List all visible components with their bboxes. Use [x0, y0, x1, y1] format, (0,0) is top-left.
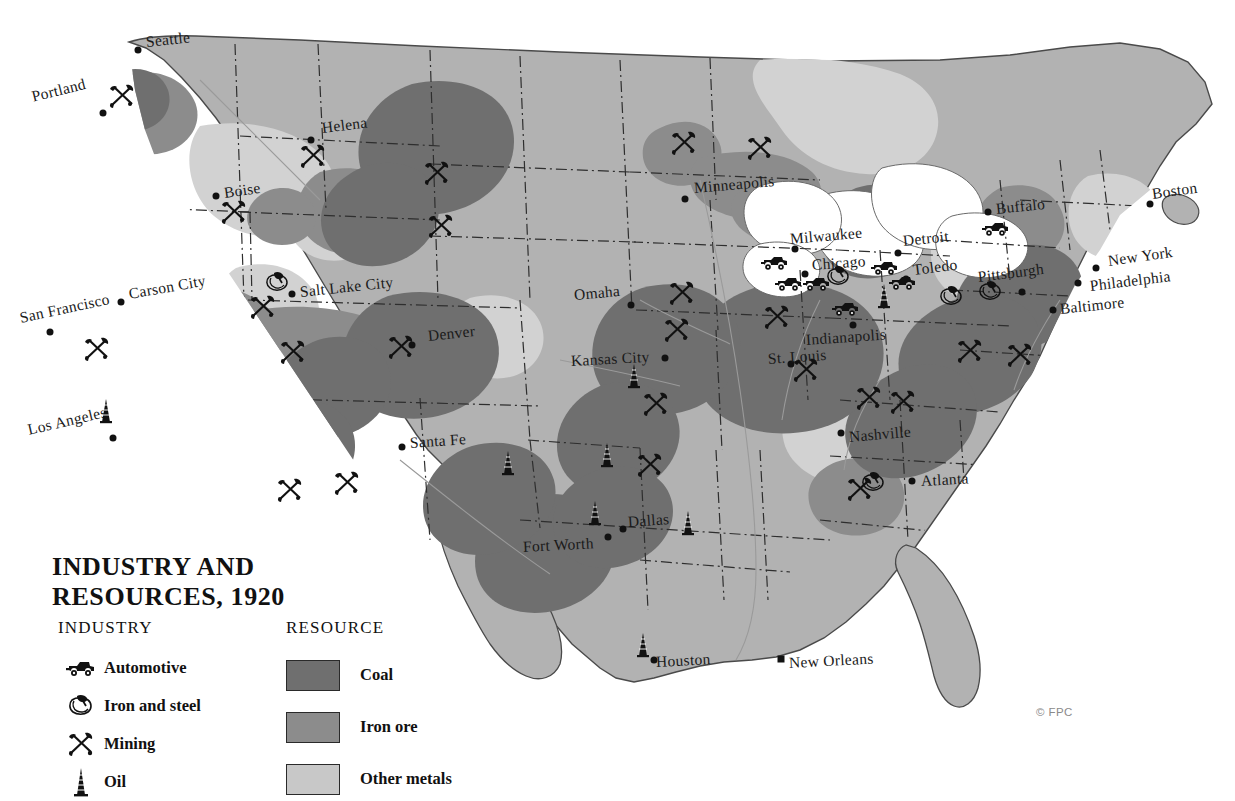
automotive-icon [888, 274, 918, 295]
city-marker [100, 110, 107, 117]
mining-icon [664, 318, 690, 346]
mining-icon [280, 340, 306, 368]
mining-icon [221, 200, 247, 228]
legend-label-mining: Mining [104, 734, 155, 754]
automotive-icon [58, 659, 104, 677]
oil-derrick-icon [499, 450, 517, 480]
legend-item-oil: Oil [58, 763, 201, 801]
city-marker [778, 656, 785, 663]
city-marker [792, 246, 799, 253]
mining-icon [424, 161, 450, 189]
mining-icon [58, 731, 104, 757]
automotive-icon [831, 300, 861, 321]
legend-label-iron-ore: Iron ore [360, 717, 418, 737]
city-marker [1019, 289, 1026, 296]
city-marker [838, 430, 845, 437]
copyright-notice: © FPC [1036, 706, 1073, 718]
other-metals-swatch [286, 764, 340, 795]
city-marker [682, 196, 689, 203]
legend-item-iron-and-steel: Iron and steel [58, 687, 201, 725]
city-marker [213, 193, 220, 200]
oil-derrick-icon [97, 398, 115, 428]
city-marker [1147, 201, 1154, 208]
city-marker [895, 250, 902, 257]
iron-and-steel-icon [860, 471, 886, 498]
legend-label-automotive: Automotive [104, 658, 186, 678]
iron-and-steel-icon [825, 265, 851, 292]
iron-and-steel-icon [977, 280, 1003, 307]
legend-item-iron-ore: Iron ore [286, 701, 452, 753]
mining-icon [334, 471, 360, 499]
automotive-icon [981, 220, 1011, 241]
mining-icon [300, 144, 326, 172]
oil-derrick-icon [58, 767, 104, 797]
oil-derrick-icon [598, 442, 616, 472]
mining-icon [109, 84, 135, 112]
city-marker [1075, 280, 1082, 287]
oil-derrick-icon [679, 510, 697, 540]
mining-icon [277, 478, 303, 506]
legend-item-automotive: Automotive [58, 649, 201, 687]
legend-item-mining: Mining [58, 725, 201, 763]
oil-derrick-icon [586, 500, 604, 530]
mining-icon [671, 131, 697, 159]
legend-label-other-metals: Other metals [360, 769, 452, 789]
legend-label-oil: Oil [104, 772, 126, 792]
oil-derrick-icon [625, 363, 643, 393]
iron-ore-swatch [286, 712, 340, 743]
legend-industry-heading: INDUSTRY [58, 618, 201, 638]
mining-icon [388, 335, 414, 363]
iron-and-steel-icon [264, 271, 290, 298]
legend-resource-column: RESOURCE Coal Iron ore Other metals [286, 618, 452, 801]
city-marker [850, 322, 857, 329]
legend-industry-column: INDUSTRY Automotive [58, 618, 201, 801]
city-marker [135, 47, 142, 54]
legend-label-coal: Coal [360, 665, 393, 685]
mining-icon [764, 305, 790, 333]
map-title-line1: INDUSTRY AND [52, 552, 285, 582]
city-marker [620, 526, 627, 533]
city-marker [662, 355, 669, 362]
automotive-icon [774, 275, 804, 296]
map-title-line2: RESOURCES, 1920 [52, 582, 285, 612]
iron-and-steel-icon [938, 285, 964, 312]
mining-icon [793, 358, 819, 386]
mining-icon [856, 386, 882, 414]
mining-icon [890, 390, 916, 418]
city-marker [1093, 265, 1100, 272]
city-marker [118, 299, 125, 306]
automotive-icon [760, 254, 790, 275]
city-marker [47, 329, 54, 336]
mining-icon [957, 339, 983, 367]
city-marker [985, 209, 992, 216]
mining-icon [1007, 343, 1033, 371]
city-marker [110, 435, 117, 442]
mining-icon [669, 281, 695, 309]
mining-icon [637, 453, 663, 481]
oil-derrick-icon [634, 632, 652, 662]
iron-and-steel-icon [58, 693, 104, 719]
legend-resource-heading: RESOURCE [286, 618, 452, 638]
city-marker [1050, 307, 1057, 314]
mining-icon [250, 295, 276, 323]
city-marker [399, 444, 406, 451]
city-marker [308, 137, 315, 144]
coal-swatch [286, 660, 340, 691]
map-title-block: INDUSTRY AND RESOURCES, 1920 [52, 552, 285, 612]
mining-icon [84, 337, 110, 365]
city-marker [605, 534, 612, 541]
city-marker [909, 478, 916, 485]
city-marker [628, 302, 635, 309]
mining-icon [428, 214, 454, 242]
legend-item-other-metals: Other metals [286, 753, 452, 801]
legend-item-coal: Coal [286, 649, 452, 701]
legend-label-iron-and-steel: Iron and steel [104, 696, 201, 716]
mining-icon [747, 136, 773, 164]
mining-icon [643, 392, 669, 420]
